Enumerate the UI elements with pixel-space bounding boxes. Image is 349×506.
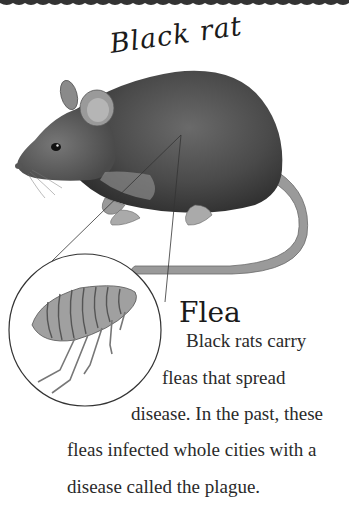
- body-text-line: Black rats carry: [186, 330, 306, 352]
- inset-title: Flea: [179, 296, 241, 329]
- flea-illustration-in-circle: [0, 0, 349, 506]
- body-text-line: fleas that spread: [162, 367, 285, 389]
- body-text-line: fleas infected whole cities with a: [67, 439, 317, 461]
- body-text-line: disease. In the past, these: [131, 403, 323, 425]
- body-text-line: disease called the plague.: [67, 476, 260, 498]
